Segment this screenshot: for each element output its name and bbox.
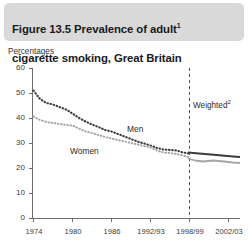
y-axis-label-10: 10 [5, 188, 25, 197]
x-axis-label-1980: 1980 [55, 227, 91, 236]
figure-container: Figure 13.5 Prevalence of adult1 cigaret… [0, 0, 248, 247]
weighted-annotation: Weighted2 [193, 101, 231, 110]
y-axis-label-0: 0 [5, 213, 25, 222]
x-axis-label-1998-99: 1998/99 [168, 227, 212, 236]
x-axis-label-1974: 1974 [16, 227, 52, 236]
x-axis-label-1986: 1986 [94, 227, 130, 236]
y-axis-label-40: 40 [5, 113, 25, 122]
series-line-men-solid [188, 153, 240, 158]
x-axis-label-1992-93: 1992/93 [129, 227, 173, 236]
series-label-women: Women [70, 146, 99, 156]
chart-plot-area: 60 50 40 30 20 10 0 1974 1980 1986 1992/… [0, 0, 248, 247]
y-axis-label-50: 50 [5, 88, 25, 97]
weighted-annotation-text: Weighted [193, 101, 227, 110]
chart-svg [0, 0, 248, 247]
y-axis-label-30: 30 [5, 138, 25, 147]
y-axis-label-60: 60 [5, 63, 25, 72]
series-line-women-solid [188, 159, 240, 164]
y-axis-label-20: 20 [5, 163, 25, 172]
weighted-footnote-marker: 2 [227, 99, 230, 105]
x-axis-label-2002-03: 2002/03 [207, 227, 248, 236]
series-line-men-dotted [34, 91, 190, 154]
series-line-women-dotted [34, 117, 190, 158]
series-label-men: Men [127, 124, 143, 134]
